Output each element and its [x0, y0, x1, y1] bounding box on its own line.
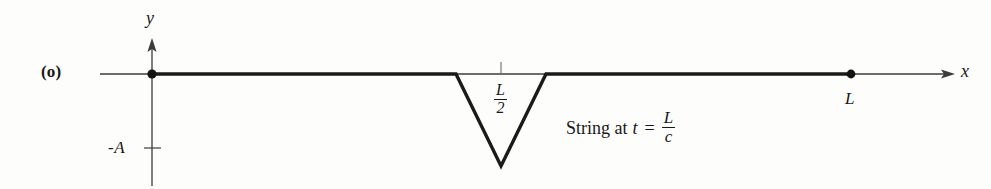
caption-fraction-numerator: L: [662, 109, 675, 128]
midpoint-fraction-denominator: 2: [494, 100, 507, 117]
endpoint-length-label: L: [845, 90, 854, 107]
midpoint-fraction-numerator: L: [494, 82, 507, 100]
x-axis-label: x: [961, 62, 969, 80]
figure-caption: String at t = L c: [566, 110, 675, 146]
y-axis-label: y: [146, 9, 154, 27]
caption-fraction-denominator: c: [662, 128, 675, 146]
caption-text: String at: [566, 119, 628, 137]
figure-container: (o) y x -A L 2 L String at t = L c: [0, 0, 991, 189]
neg-amplitude-label: -A: [108, 139, 125, 156]
panel-label: (o): [41, 63, 61, 80]
caption-equals-sign: =: [638, 119, 662, 137]
origin-endpoint-dot: [147, 69, 156, 78]
midpoint-label: L 2: [494, 82, 507, 116]
caption-fraction: L c: [662, 109, 675, 145]
right-endpoint-dot: [847, 70, 856, 79]
caption-time-variable: t: [628, 119, 638, 137]
midpoint-fraction: L 2: [494, 82, 507, 116]
